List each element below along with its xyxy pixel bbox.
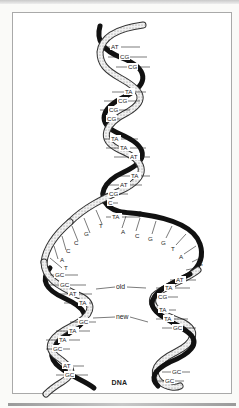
svg-text:CG: CG	[128, 63, 137, 70]
svg-text:G: G	[84, 230, 89, 237]
svg-text:TA: TA	[120, 144, 128, 151]
svg-text:AT: AT	[111, 43, 119, 50]
svg-text:CG: CG	[118, 97, 127, 104]
right-unpaired-strand: A C G G T A G G	[121, 214, 203, 277]
svg-text:CG: CG	[120, 53, 129, 60]
svg-text:GC: GC	[79, 318, 89, 325]
svg-text:TA: TA	[165, 284, 173, 291]
svg-text:AT: AT	[69, 290, 77, 297]
svg-text:TA: TA	[159, 306, 167, 313]
svg-text:G: G	[161, 239, 166, 246]
svg-text:T: T	[99, 222, 103, 229]
svg-text:GC: GC	[55, 271, 65, 278]
svg-text:G: G	[198, 260, 203, 267]
svg-text:GC: GC	[172, 368, 182, 375]
svg-text:TA: TA	[59, 336, 67, 343]
svg-text:CG: CG	[109, 106, 118, 113]
right-daughter-helix: AT TA CG TA TA GC GC GC	[152, 270, 198, 387]
svg-text:C: C	[135, 232, 140, 239]
svg-text:AT: AT	[130, 153, 138, 160]
left-daughter-helix: GC GC AT TA GC TA TA GC AT GC	[44, 262, 96, 394]
svg-text:TA: TA	[69, 327, 77, 334]
figure-caption: DNA	[0, 379, 239, 386]
svg-text:CG: CG	[107, 115, 116, 122]
svg-text:AT: AT	[120, 181, 128, 188]
svg-text:TA: TA	[125, 88, 133, 95]
svg-text:C: C	[74, 239, 79, 246]
svg-text:C: C	[66, 247, 71, 254]
strand-callouts: old new	[93, 283, 148, 322]
svg-text:G: G	[148, 235, 153, 242]
svg-text:CG: CG	[109, 190, 118, 197]
old-label: old	[116, 283, 125, 290]
svg-text:A: A	[60, 256, 65, 263]
svg-text:AT: AT	[63, 362, 71, 369]
svg-text:TA: TA	[111, 135, 119, 142]
parent-helix: AT CG CG TA CG CG CG TA TA AT TA AT CG C…	[70, 25, 150, 222]
svg-text:GC: GC	[65, 371, 75, 378]
svg-text:GC: GC	[60, 281, 70, 288]
svg-text:TA: TA	[112, 213, 120, 220]
svg-text:TA: TA	[131, 172, 139, 179]
svg-text:T: T	[64, 264, 68, 271]
svg-text:TA: TA	[79, 299, 87, 306]
svg-text:TA: TA	[164, 315, 172, 322]
new-label: new	[116, 313, 129, 320]
svg-text:CG: CG	[158, 293, 167, 300]
svg-text:C: C	[108, 199, 113, 206]
svg-text:AT: AT	[176, 276, 184, 283]
dna-replication-diagram: AT CG CG TA CG CG CG TA TA AT TA AT CG C…	[0, 0, 239, 408]
svg-text:A: A	[179, 253, 184, 260]
svg-text:A: A	[121, 228, 126, 235]
svg-text:GC: GC	[53, 345, 63, 352]
bottom-rule	[8, 403, 236, 406]
svg-text:T: T	[171, 245, 175, 252]
svg-text:GC: GC	[173, 324, 183, 331]
